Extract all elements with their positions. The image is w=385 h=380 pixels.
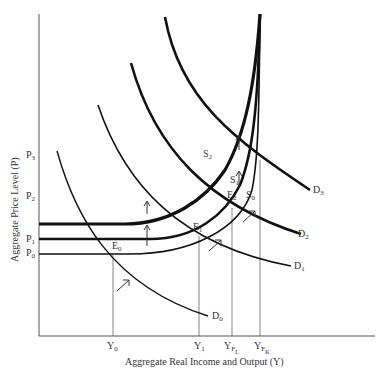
supply-curve-s0: [39, 14, 260, 254]
label-s1: S1: [230, 174, 240, 187]
x-tick-yfl: YFL: [224, 340, 239, 355]
y-tick-p3: P3: [26, 149, 36, 162]
x-tick-yfk: YFK: [254, 340, 270, 355]
label-d3: D3: [313, 184, 324, 197]
y-tick-p2: P2: [26, 190, 36, 203]
demand-curve-d2: [131, 63, 301, 234]
label-e0: E0: [112, 240, 122, 253]
y-tick-p0: P0: [26, 247, 36, 260]
arrow-icon: [117, 135, 255, 291]
x-axis-title: Aggregate Real Income and Output (Y): [125, 356, 284, 368]
demand-curve-d1: [98, 105, 291, 266]
label-d1: D1: [294, 260, 305, 273]
aggregate-supply-demand-diagram: P3 P2 P1 P0 Y0 Y1 YFL YFK Aggregate Real…: [0, 0, 385, 380]
label-d0: D0: [212, 310, 223, 323]
y-axis-title: Aggregate Price Level (P): [9, 157, 21, 262]
x-tick-y0: Y0: [107, 340, 118, 353]
label-d2: D2: [298, 228, 309, 241]
x-tick-y1: Y1: [194, 340, 205, 353]
label-s2: S2: [203, 148, 213, 161]
demand-curve-d3: [165, 17, 310, 190]
y-tick-p1: P1: [26, 233, 36, 246]
